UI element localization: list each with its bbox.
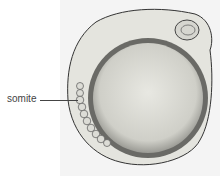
embryo-image: [60, 0, 220, 176]
somite-leader-line: [40, 100, 78, 101]
somite-label: somite: [7, 93, 36, 104]
embryo-drawing: [60, 0, 220, 176]
